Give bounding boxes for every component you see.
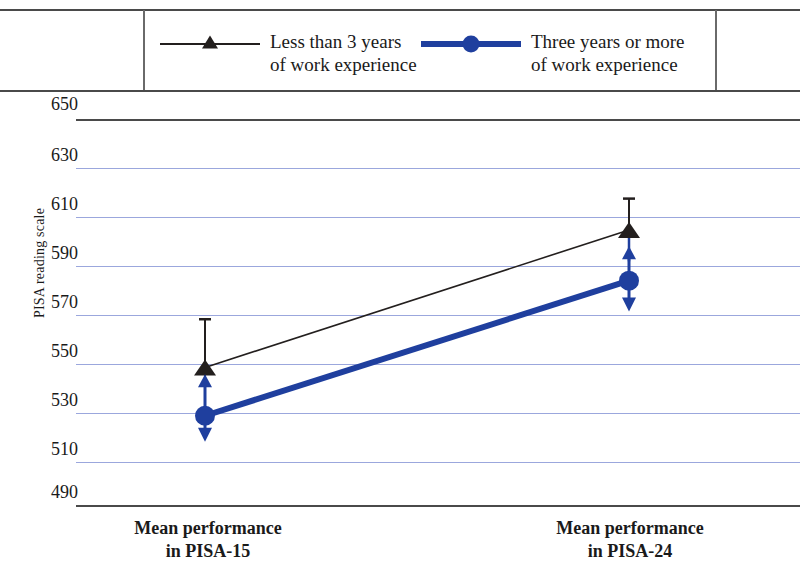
data-point-circle xyxy=(619,271,639,291)
error-bar xyxy=(623,199,635,262)
y-tick-label: 570 xyxy=(28,292,78,313)
chart-legend: Less than 3 years of work experience Thr… xyxy=(0,0,800,92)
legend-item-less-than-3-years: Less than 3 years of work experience xyxy=(160,30,417,76)
legend-bottom-rule xyxy=(0,90,800,92)
x-axis-line xyxy=(76,505,800,507)
chart-root: Less than 3 years of work experience Thr… xyxy=(0,0,800,569)
y-tick-label: 650 xyxy=(28,94,78,115)
y-tick-label: 610 xyxy=(28,194,78,215)
legend-item-label: Three years or more of work experience xyxy=(521,30,685,76)
gridline-610 xyxy=(76,217,800,218)
gridline-630 xyxy=(76,168,800,169)
y-tick-label: 590 xyxy=(28,243,78,264)
gridline-550 xyxy=(76,364,800,365)
series-line xyxy=(205,230,629,368)
error-bar xyxy=(622,246,636,311)
circle-marker-icon xyxy=(421,34,521,54)
error-bar xyxy=(198,374,212,442)
error-bar xyxy=(199,319,211,383)
gridline-590 xyxy=(76,266,800,267)
y-tick-label: 550 xyxy=(28,341,78,362)
gridline-650 xyxy=(76,119,800,121)
legend-top-rule xyxy=(0,9,800,11)
legend-divider-right xyxy=(715,10,717,90)
y-tick-label: 510 xyxy=(28,439,78,460)
gridline-530 xyxy=(76,413,800,414)
series-less-than-3-years xyxy=(194,199,640,384)
y-tick-label: 530 xyxy=(28,390,78,411)
legend-item-three-years-or-more: Three years or more of work experience xyxy=(421,30,685,76)
legend-item-label: Less than 3 years of work experience xyxy=(260,30,417,76)
legend-divider-left xyxy=(143,10,145,90)
data-point-triangle xyxy=(194,359,216,375)
gridline-570 xyxy=(76,315,800,316)
x-tick-label: Mean performance in PISA-15 xyxy=(88,517,328,563)
x-tick-label: Mean performance in PISA-24 xyxy=(510,517,750,563)
y-tick-label: 490 xyxy=(28,482,78,503)
gridline-510 xyxy=(76,462,800,463)
data-point-triangle xyxy=(618,222,640,238)
triangle-marker-icon xyxy=(160,34,260,54)
y-tick-label: 630 xyxy=(28,145,78,166)
series-line xyxy=(205,281,629,416)
data-point-circle xyxy=(195,406,215,426)
